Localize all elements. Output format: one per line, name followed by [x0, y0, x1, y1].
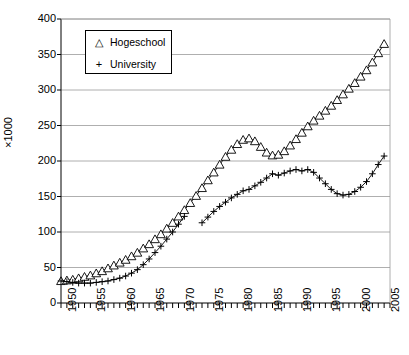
- x-tick-label: 1970: [184, 288, 196, 312]
- x-tick-label: 2005: [389, 288, 401, 312]
- cropped-caption-sliver: [0, 344, 409, 355]
- x-tick-label: 1985: [272, 288, 284, 312]
- chart-container: ×1000 050100150200250300350400 195019551…: [0, 0, 409, 355]
- x-tick-label: 1950: [66, 288, 78, 312]
- plot-area: [0, 0, 409, 355]
- x-tick-label: 1995: [330, 288, 342, 312]
- legend-item-university: + University: [86, 53, 171, 75]
- x-tick-label: 1980: [242, 288, 254, 312]
- legend-item-hogeschool: △ Hogeschool: [86, 31, 171, 53]
- x-tick-label: 1955: [95, 288, 107, 312]
- plus-icon: +: [92, 59, 106, 70]
- chart-legend: △ Hogeschool + University: [85, 30, 172, 74]
- x-tick-label: 1960: [125, 288, 137, 312]
- data-series-layer: [57, 40, 389, 287]
- x-tick-label: 2000: [360, 288, 372, 312]
- legend-label-university: University: [110, 58, 156, 70]
- triangle-up-icon: △: [92, 37, 106, 48]
- y-axis-ticks: [57, 19, 61, 303]
- x-tick-label: 1965: [154, 288, 166, 312]
- legend-label-hogeschool: Hogeschool: [110, 36, 165, 48]
- x-tick-label: 1990: [301, 288, 313, 312]
- x-tick-label: 1975: [213, 288, 225, 312]
